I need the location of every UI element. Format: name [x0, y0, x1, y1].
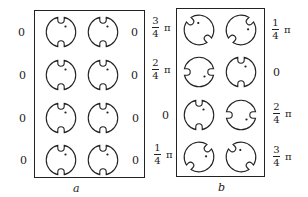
panel-b-right-label-4: 34 π	[273, 145, 292, 168]
panel-a-left-label-4: 0	[20, 155, 27, 166]
panel-b-right-label-3: 24 π	[273, 102, 292, 125]
notched-disc-a-r4c2	[86, 143, 120, 177]
denominator: 4	[273, 158, 279, 168]
notched-disc-b-r1c2	[224, 13, 258, 47]
denominator: 4	[272, 31, 278, 41]
numerator: 2	[152, 58, 158, 68]
notched-disc-b-r3c1	[182, 98, 216, 132]
numerator: 1	[272, 18, 278, 28]
pi-symbol: π	[166, 149, 173, 160]
pi-symbol: π	[164, 22, 171, 33]
pi-symbol: π	[285, 108, 292, 119]
notched-disc-a-r2c2	[86, 58, 120, 92]
notched-disc-b-r2c1	[182, 55, 216, 89]
numerator: 2	[273, 102, 279, 112]
notched-disc-b-r3c2	[224, 98, 258, 132]
panel-b-left-label-1: 34 π	[152, 16, 171, 39]
panel-a-right-label-3: 0	[132, 113, 139, 124]
panel-a-left-label-3: 0	[19, 113, 26, 124]
panel-b-left-label-3: 0	[162, 110, 169, 121]
notched-disc-b-r4c2	[224, 140, 258, 174]
panel-a-left-label-1: 0	[18, 27, 25, 38]
panel-b-right-label-2: 0	[273, 67, 280, 78]
numerator: 3	[273, 145, 279, 155]
panel-b-caption: b	[218, 181, 225, 194]
pi-symbol: π	[164, 64, 171, 75]
denominator: 4	[152, 29, 158, 39]
panel-a-right-label-2: 0	[131, 70, 138, 81]
denominator: 4	[152, 71, 158, 81]
notched-disc-a-r2c1	[44, 58, 78, 92]
notched-disc-b-r2c2	[224, 55, 258, 89]
panel-a-caption: a	[73, 182, 80, 195]
panel-a-left-label-2: 0	[19, 70, 26, 81]
notched-disc-a-r1c1	[44, 15, 78, 49]
panel-b-left-label-2: 24 π	[152, 58, 171, 81]
denominator: 4	[154, 156, 160, 166]
notched-disc-b-r4c1	[182, 140, 216, 174]
pi-symbol: π	[285, 151, 292, 162]
notched-disc-a-r4c1	[44, 143, 78, 177]
numerator: 1	[154, 143, 160, 153]
notched-disc-a-r3c1	[44, 101, 78, 135]
panel-a-right-label-4: 0	[132, 155, 139, 166]
panel-b-right-label-1: 14 π	[272, 18, 291, 41]
denominator: 4	[273, 115, 279, 125]
notched-disc-a-r1c2	[86, 15, 120, 49]
notched-disc-a-r3c2	[86, 101, 120, 135]
panel-a-right-label-1: 0	[131, 27, 138, 38]
numerator: 3	[152, 16, 158, 26]
notched-disc-b-r1c1	[182, 13, 216, 47]
panel-b-left-label-4: 14 π	[154, 143, 173, 166]
pi-symbol: π	[284, 24, 291, 35]
